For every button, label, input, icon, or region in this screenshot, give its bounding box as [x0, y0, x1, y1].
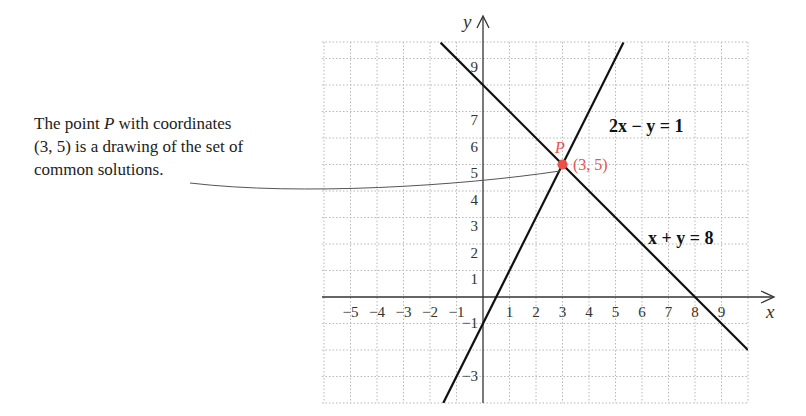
equation-label-x-plus-y: x + y = 8 [648, 228, 714, 248]
svg-text:6: 6 [471, 139, 479, 155]
line-x-plus-y [441, 43, 748, 350]
y-axis-label: y [461, 11, 472, 32]
svg-text:−4: −4 [369, 304, 385, 320]
svg-text:5: 5 [471, 165, 479, 181]
coordinate-plane: x y −5 −4 −3 −2 −1 1 2 3 4 5 6 7 8 9 9 7… [0, 0, 806, 416]
svg-text:3: 3 [471, 218, 479, 234]
x-tick-labels: −5 −4 −3 −2 −1 1 2 3 4 5 6 7 8 9 [343, 304, 726, 320]
svg-text:7: 7 [665, 304, 673, 320]
svg-text:7: 7 [471, 112, 479, 128]
grid [322, 42, 748, 403]
svg-text:2: 2 [532, 304, 540, 320]
y-axis [477, 16, 489, 403]
point-p-marker [558, 160, 568, 170]
svg-text:1: 1 [471, 271, 479, 287]
point-p-label: P [554, 139, 565, 156]
svg-text:−2: −2 [422, 304, 438, 320]
equation-label-2x-minus-y: 2x − y = 1 [609, 116, 684, 136]
svg-text:−5: −5 [343, 304, 359, 320]
svg-text:1: 1 [506, 304, 514, 320]
x-axis [322, 291, 774, 303]
svg-text:8: 8 [691, 304, 699, 320]
x-axis-label: x [765, 301, 775, 322]
svg-text:−1: −1 [462, 315, 478, 331]
svg-text:4: 4 [585, 304, 593, 320]
svg-text:5: 5 [612, 304, 620, 320]
svg-text:3: 3 [559, 304, 567, 320]
svg-text:6: 6 [638, 304, 646, 320]
leader-line [190, 171, 560, 189]
svg-text:−3: −3 [396, 304, 412, 320]
point-p-coords: (3, 5) [573, 156, 608, 174]
svg-text:4: 4 [471, 192, 479, 208]
svg-text:2: 2 [471, 245, 479, 261]
svg-text:−3: −3 [462, 368, 478, 384]
svg-text:9: 9 [718, 304, 726, 320]
